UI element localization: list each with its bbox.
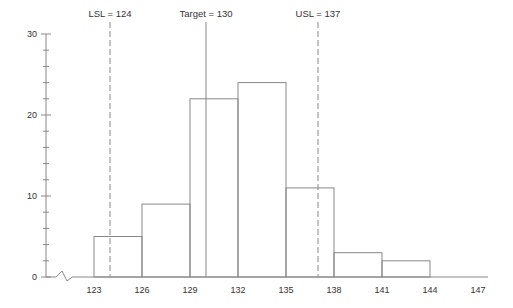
- y-tick-label: 20: [27, 110, 37, 120]
- spec-line-label: USL = 137: [296, 8, 341, 19]
- x-tick-label: 144: [422, 285, 437, 295]
- y-tick-label: 0: [32, 272, 37, 282]
- x-tick-label: 138: [326, 285, 341, 295]
- histogram-bar: [382, 261, 430, 277]
- axis-break-icon: [46, 271, 72, 281]
- x-tick-label: 126: [134, 285, 149, 295]
- histogram-chart: 0102030 123126129132135138141144147 LSL …: [0, 0, 513, 308]
- histogram-bar: [142, 204, 190, 277]
- x-tick-label: 135: [278, 285, 293, 295]
- y-tick-label: 10: [27, 191, 37, 201]
- spec-line-label: Target = 130: [179, 8, 232, 19]
- spec-line-label: LSL = 124: [88, 8, 131, 19]
- y-tick-label: 30: [27, 29, 37, 39]
- histogram-bar: [238, 83, 286, 277]
- x-tick-label: 129: [182, 285, 197, 295]
- histogram-bars: [94, 83, 430, 277]
- histogram-bar: [94, 237, 142, 278]
- histogram-bar: [286, 188, 334, 277]
- y-axis: 0102030: [27, 29, 51, 282]
- x-tick-label: 141: [374, 285, 389, 295]
- x-tick-label: 147: [470, 285, 485, 295]
- histogram-bar: [334, 253, 382, 277]
- histogram-bar: [190, 99, 238, 277]
- x-axis: 123126129132135138141144147: [46, 271, 488, 295]
- x-tick-label: 123: [86, 285, 101, 295]
- x-tick-label: 132: [230, 285, 245, 295]
